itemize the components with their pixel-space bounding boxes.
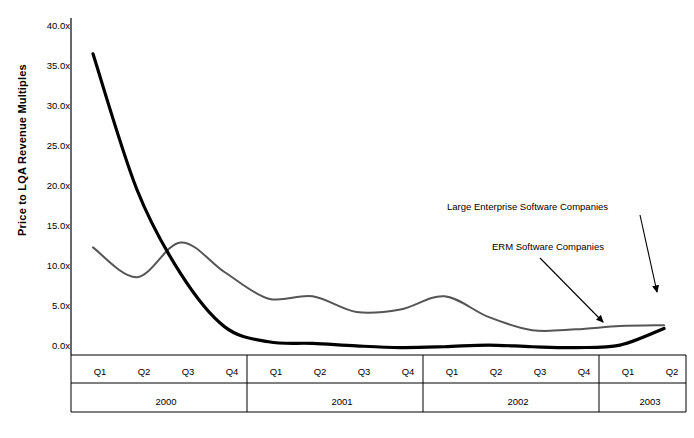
annotation-leader-large-enterprise — [640, 215, 657, 292]
chart-plot-area — [0, 0, 694, 438]
chart-container: Price to LQA Revenue Multiples 40.0x 35.… — [0, 0, 694, 438]
series-line-large-enterprise-software-companies — [93, 242, 664, 331]
series-line-erm-software-companies — [93, 54, 664, 348]
annotation-leader-erm — [540, 258, 603, 322]
